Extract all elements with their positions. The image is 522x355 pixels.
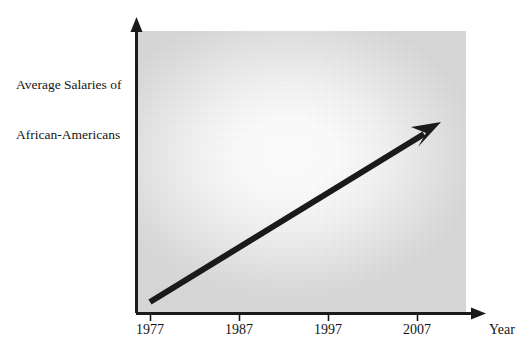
- x-axis-title: Year: [489, 322, 515, 338]
- y-axis-title-line-2: African-Americans: [16, 127, 121, 144]
- x-tick-label-1987: 1987: [209, 322, 269, 338]
- arrow-up-icon: [131, 17, 143, 32]
- trend-line: [150, 134, 424, 302]
- x-tick-label-1997: 1997: [298, 322, 358, 338]
- x-tick-label-2007: 2007: [387, 322, 447, 338]
- arrow-up-right-icon: [411, 122, 441, 147]
- chart-figure: Average Salaries of African-Americans 19…: [0, 0, 522, 355]
- y-axis-title-line-1: Average Salaries of: [16, 77, 121, 94]
- arrow-right-icon: [471, 308, 486, 320]
- y-axis-title: Average Salaries of African-Americans: [16, 44, 121, 176]
- x-tick-label-1977: 1977: [120, 322, 180, 338]
- trend-arrow-series: [150, 122, 441, 302]
